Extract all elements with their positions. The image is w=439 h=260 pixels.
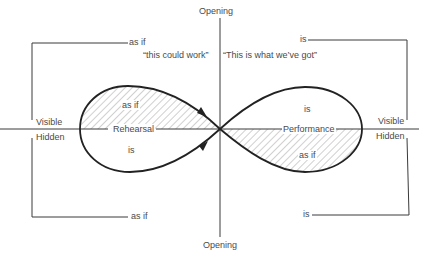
quote-left: “this could work”	[143, 50, 209, 60]
quote-right: “This is what we’ve got”	[223, 50, 317, 60]
left-visible-label: Visible	[36, 117, 62, 127]
performance-upper-label: is	[304, 104, 311, 114]
opening-top-label: Opening	[199, 6, 233, 16]
rehearsal-lower-label: is	[128, 145, 135, 155]
right-bottom-bracket-label: is	[303, 209, 310, 219]
performance-label: Performance	[282, 124, 336, 134]
opening-bottom-label: Opening	[203, 240, 237, 250]
left-top-bracket-label: as if	[129, 37, 146, 47]
right-top-bracket	[308, 40, 407, 120]
left-bottom-bracket-label: as if	[131, 211, 148, 221]
right-hidden-label: Hidden	[376, 131, 405, 141]
performance-lower-label: as if	[298, 150, 317, 160]
performance-shaded-region	[220, 129, 362, 172]
left-bottom-bracket	[32, 138, 128, 217]
figure-eight-diagram	[0, 0, 439, 260]
right-top-bracket-label: is	[300, 34, 307, 44]
rehearsal-upper-label: as if	[121, 100, 140, 110]
left-hidden-label: Hidden	[36, 132, 65, 142]
right-visible-label: Visible	[378, 116, 404, 126]
rehearsal-label: Rehearsal	[112, 124, 155, 134]
